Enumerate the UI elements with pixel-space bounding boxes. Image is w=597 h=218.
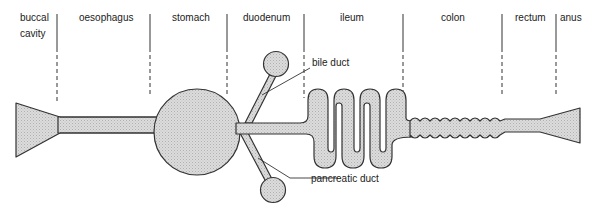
- label-anus: anus: [560, 12, 582, 23]
- region-labels: buccal cavity oesophagus stomach duodenu…: [20, 12, 582, 39]
- label-bile-duct: bile duct: [312, 57, 349, 68]
- label-oesophagus: oesophagus: [79, 12, 134, 23]
- bile-duct: [245, 52, 289, 124]
- label-duodenum: duodenum: [243, 12, 290, 23]
- gut-tube: [16, 89, 580, 175]
- label-colon: colon: [441, 12, 465, 23]
- label-buccal-cavity-2: cavity: [20, 28, 46, 39]
- label-rectum: rectum: [515, 12, 546, 23]
- label-ileum: ileum: [340, 12, 364, 23]
- label-pancreatic-duct: pancreatic duct: [311, 173, 379, 184]
- label-buccal-cavity: buccal: [20, 12, 49, 23]
- stomach: [154, 89, 240, 175]
- label-stomach: stomach: [172, 12, 210, 23]
- alimentary-canal-diagram: buccal cavity oesophagus stomach duodenu…: [0, 0, 597, 218]
- region-dividers: [57, 14, 556, 102]
- pancreatic-duct: [240, 133, 286, 203]
